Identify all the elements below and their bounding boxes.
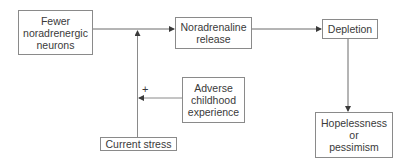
node-label-line: Adverse bbox=[188, 82, 239, 94]
node-label-line: Depletion bbox=[328, 23, 372, 35]
node-label-line: Current stress bbox=[106, 138, 172, 150]
node-fewer-noradrenergic-neurons: Fewer noradrenergic neurons bbox=[18, 10, 93, 55]
node-label-line: Fewer bbox=[23, 15, 88, 27]
positive-modifier-label: + bbox=[142, 84, 148, 95]
node-hopelessness-or-pessimism: Hopelessness or pessimism bbox=[315, 112, 393, 158]
node-label-line: Noradrenaline bbox=[181, 21, 247, 33]
node-label-line: childhood bbox=[188, 94, 239, 106]
node-depletion: Depletion bbox=[322, 19, 378, 39]
node-adverse-childhood-experience: Adverse childhood experience bbox=[182, 77, 245, 123]
node-label-line: pessimism bbox=[321, 141, 387, 153]
node-label-line: Hopelessness bbox=[321, 117, 387, 129]
node-label-line: or bbox=[321, 129, 387, 141]
node-label-line: noradrenergic bbox=[23, 27, 88, 39]
node-label-line: release bbox=[181, 33, 247, 45]
node-label-line: experience bbox=[188, 106, 239, 118]
node-noradrenaline-release: Noradrenaline release bbox=[175, 17, 252, 49]
node-label-line: neurons bbox=[23, 39, 88, 51]
node-current-stress: Current stress bbox=[100, 137, 177, 151]
